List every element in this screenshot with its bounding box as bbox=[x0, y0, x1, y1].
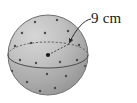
sphere-figure: 9 cm bbox=[0, 0, 137, 103]
sphere-center-point bbox=[46, 53, 50, 57]
radius-dimension-label: 9 cm bbox=[91, 10, 121, 27]
